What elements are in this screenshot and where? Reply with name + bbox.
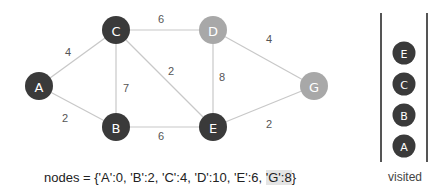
edge-weight-d-g: 4 <box>266 33 272 45</box>
visited-label: visited <box>382 170 428 184</box>
caption-entry-e: 'E':6, <box>234 170 266 185</box>
node-g: G <box>300 72 328 100</box>
caption-entry-g-highlighted: 'G':8 <box>266 170 292 185</box>
edge-weight-a-b: 2 <box>62 112 68 124</box>
nodes-layer: ABCDEG <box>25 16 328 141</box>
stack-item-label: C <box>400 79 408 92</box>
edge-weight-e-g: 2 <box>266 118 272 130</box>
edge-weight-c-d: 6 <box>158 13 164 25</box>
caption-suffix: } <box>292 170 296 185</box>
node-label: C <box>111 24 120 39</box>
stack-items: ECBA <box>393 42 416 158</box>
edge-weight-c-e: 2 <box>168 65 174 77</box>
node-a: A <box>25 72 53 100</box>
stack-item-a: A <box>393 135 416 158</box>
caption-prefix: nodes = { <box>44 170 99 185</box>
caption-entry-b: 'B':2, <box>130 170 162 185</box>
visited-stack: ECBA <box>381 13 427 162</box>
edge-weight-c-b: 7 <box>123 82 129 94</box>
stack-item-e: E <box>393 42 416 65</box>
edge-d-g <box>213 30 314 86</box>
node-d: D <box>199 16 227 44</box>
caption-entry-d: 'D':10, <box>194 170 234 185</box>
node-b: B <box>102 113 130 141</box>
edge-weight-b-e: 6 <box>158 130 164 142</box>
stack-item-label: A <box>400 141 408 154</box>
nodes-distance-caption: nodes = {'A':0, 'B':2, 'C':4, 'D':10, 'E… <box>44 170 296 185</box>
node-e: E <box>199 113 227 141</box>
edge-labels-layer: 426726842 <box>62 13 272 142</box>
stack-item-c: C <box>393 73 416 96</box>
edge-e-g <box>213 86 314 127</box>
node-label: E <box>209 121 217 136</box>
node-label: A <box>35 80 44 95</box>
edge-c-e <box>116 30 213 127</box>
edge-weight-a-c: 4 <box>65 46 71 58</box>
caption-entry-c: 'C':4, <box>162 170 194 185</box>
edge-a-c <box>39 30 116 86</box>
stack-item-label: B <box>400 110 408 123</box>
stack-item-b: B <box>393 104 416 127</box>
stack-item-label: E <box>401 48 408 61</box>
node-c: C <box>102 16 130 44</box>
caption-entry-a: 'A':0, <box>99 170 131 185</box>
edge-weight-d-e: 8 <box>219 71 225 83</box>
edges-layer <box>39 30 314 127</box>
node-label: D <box>208 24 218 39</box>
graph-diagram: 426726842 ABCDEG ECBA <box>0 0 446 189</box>
node-label: G <box>309 80 319 95</box>
node-label: B <box>112 121 121 136</box>
